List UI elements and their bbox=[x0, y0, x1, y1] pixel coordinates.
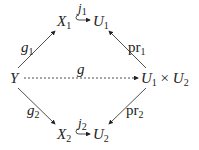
node-X2: X2 bbox=[57, 127, 71, 144]
node-U1: U1 bbox=[93, 14, 109, 31]
label-pr1: pr1 bbox=[128, 40, 146, 57]
label-pr2: pr2 bbox=[126, 103, 144, 120]
label-g2: g2 bbox=[27, 103, 40, 120]
node-Y: Y bbox=[10, 71, 18, 86]
label-j1: j1 bbox=[78, 1, 87, 17]
label-j2: j2 bbox=[78, 116, 87, 132]
label-g: g bbox=[77, 62, 85, 77]
node-U1xU2: U1 × U2 bbox=[141, 71, 189, 88]
node-U2: U2 bbox=[93, 127, 109, 144]
node-X1: X1 bbox=[57, 14, 71, 31]
label-g1: g1 bbox=[21, 40, 34, 57]
